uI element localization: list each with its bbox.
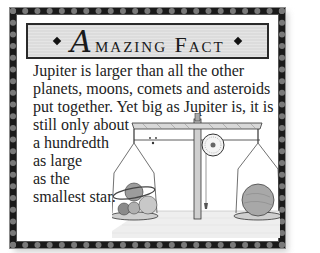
title-rest: mazing Fact	[95, 32, 225, 58]
title-banner: A mazing Fact	[26, 23, 269, 59]
title-initial: A	[70, 24, 94, 59]
diamond-ornament-icon	[233, 37, 241, 45]
fact-line: Jupiter is larger than all the other	[33, 62, 273, 80]
fact-line: planets, moons, comets and asteroids	[33, 80, 273, 98]
diamond-ornament-icon	[53, 37, 61, 45]
card-title: A mazing Fact	[70, 24, 224, 59]
balance-scale-illustration	[112, 113, 280, 238]
